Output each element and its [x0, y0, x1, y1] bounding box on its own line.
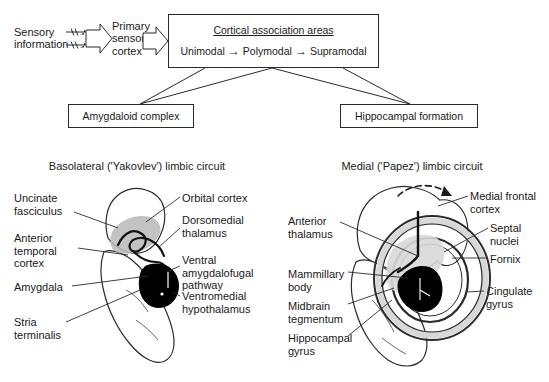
- right-brain-tract: [398, 212, 418, 272]
- stage-arrow-2-icon: →: [295, 44, 307, 58]
- left-brain-amygdala-blob: [139, 264, 178, 307]
- primary-sensory-cortex-label: Primary sensory cortex: [112, 20, 151, 57]
- amygdaloid-complex-box: Amygdaloid complex: [68, 104, 194, 128]
- label-uncinate-fasciculus: Uncinate fasciculus: [14, 192, 62, 217]
- label-stria-terminalis: Stria terminalis: [14, 316, 61, 341]
- papez-direction-arrow-icon: [398, 186, 446, 196]
- sensory-information-label: Sensory information: [14, 26, 68, 51]
- right-brain-sulci: [372, 300, 406, 354]
- fornix-ring: [392, 238, 468, 322]
- label-fornix: Fornix: [490, 253, 521, 266]
- label-cingulate-gyrus: Cingulate gyrus: [486, 285, 532, 310]
- left-brain-shaded-band: [110, 216, 160, 254]
- label-orbital-cortex: Orbital cortex: [182, 192, 247, 205]
- right-brain-tract-2: [382, 268, 400, 286]
- label-ventromedial-hypothalamus: Ventromedial hypothalamus: [182, 290, 251, 315]
- left-brain-temporal-lobe: [101, 251, 174, 363]
- cingulate-ring-inner-line: [382, 224, 482, 332]
- right-brain-thalamus-blob: [398, 267, 442, 312]
- stage-arrow-1-icon: →: [228, 44, 240, 58]
- label-anterior-temporal-cortex: Anterior temporal cortex: [14, 232, 57, 270]
- label-mammillary-body: Mammillary body: [288, 268, 344, 293]
- left-brain-pathway-curve: [118, 231, 164, 256]
- left-panel-title: Basolateral ('Yakovlev') limbic circuit: [0, 160, 274, 172]
- hippocampal-formation-box: Hippocampal formation: [340, 104, 478, 128]
- label-amygdala: Amygdala: [14, 281, 63, 294]
- limbic-circuit-figure: Sensory information Primary sensory cort…: [0, 0, 549, 382]
- right-panel-title: Medial ('Papez') limbic circuit: [275, 160, 549, 172]
- label-dorsomedial-thalamus: Dorsomedial thalamus: [182, 214, 244, 239]
- left-brain-outline: [106, 188, 165, 253]
- label-medial-frontal-cortex: Medial frontal cortex: [470, 190, 536, 215]
- cingulate-ring-band: [379, 221, 485, 335]
- right-brain-shaded-region: [386, 235, 445, 293]
- cortical-box-title: Cortical association areas: [213, 24, 333, 36]
- label-ventral-amygdalofugal-pathway: Ventral amygdalofugal pathway: [182, 254, 254, 292]
- stage-unimodal: Unimodal: [180, 45, 224, 57]
- block-arrow-sensory: [86, 24, 112, 53]
- cortical-association-areas-box: Cortical association areas Unimodal → Po…: [168, 14, 379, 68]
- amygdaloid-complex-label: Amygdaloid complex: [83, 110, 180, 122]
- right-brain-frontal-bulge: [438, 200, 468, 266]
- cortical-box-stages: Unimodal → Polymodal → Supramodal: [180, 44, 366, 58]
- label-septal-nuclei: Septal nuclei: [490, 222, 521, 247]
- label-midbrain-tegmentum: Midbrain tegmentum: [288, 300, 343, 325]
- stage-supramodal: Supramodal: [310, 45, 367, 57]
- cingulate-ring-outer: [374, 216, 490, 340]
- left-brain-pathway-curve-2: [134, 252, 168, 270]
- right-brain-outline: [357, 187, 451, 272]
- label-anterior-thalamus: Anterior thalamus: [288, 215, 333, 240]
- left-brain-sulci: [126, 290, 158, 340]
- fornix-ring-inner: [398, 244, 462, 316]
- right-brain-temporal-lobe: [352, 260, 427, 366]
- label-hippocampal-gyrus: Hippocampal gyrus: [288, 332, 352, 357]
- stage-polymodal: Polymodal: [243, 45, 292, 57]
- hippocampal-formation-label: Hippocampal formation: [355, 110, 463, 122]
